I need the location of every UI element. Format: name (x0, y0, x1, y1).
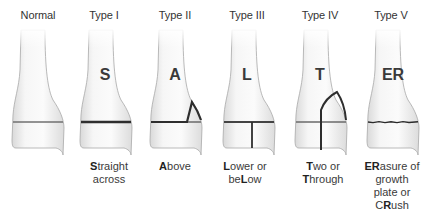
caption-line: beLow (205, 173, 285, 186)
caption-text: traight (97, 160, 128, 172)
letter-type-2: A (150, 66, 200, 84)
bone-type-3 (223, 28, 277, 155)
caption-text: be (228, 173, 240, 185)
label-type-1: Type I (69, 9, 139, 21)
label-type-5: Type V (356, 9, 426, 21)
mnemonic-letter: T (306, 160, 313, 172)
mnemonic-letter: A (159, 160, 167, 172)
caption-line: ERasure of (352, 160, 432, 173)
bone-type-5 (367, 28, 421, 155)
mnemonic-letter: L (223, 160, 230, 172)
letter-type-4: T (295, 66, 345, 84)
caption-type-3: Lower orbeLow (205, 160, 285, 186)
caption-text: ow (247, 173, 261, 185)
caption-line: Above (135, 160, 215, 173)
letter-type-3: L (222, 66, 272, 84)
fracture-line (368, 122, 418, 123)
caption-type-2: Above (135, 160, 215, 173)
label-type-4: Type IV (285, 9, 355, 21)
caption-type-4: Two orThrough (283, 160, 363, 186)
bone-type-4 (295, 28, 349, 155)
caption-text: growth (375, 173, 408, 185)
mnemonic-letter: R (383, 199, 391, 211)
caption-text: C (375, 199, 383, 211)
caption-line: CRush (352, 199, 432, 212)
caption-text: wo or (313, 160, 340, 172)
caption-text: ower or (230, 160, 267, 172)
letter-type-1: S (80, 66, 130, 84)
caption-type-5: ERasure ofgrowthplate orCRush (352, 160, 432, 212)
caption-text: asure of (380, 160, 420, 172)
letter-type-5: ER (368, 66, 418, 84)
caption-text: plate or (374, 186, 411, 198)
salter-harris-diagram: Normal Type I Type II Type III Type IV T… (0, 0, 435, 218)
label-normal: Normal (3, 9, 73, 21)
caption-line: Lower or (205, 160, 285, 173)
caption-text: hrough (309, 173, 343, 185)
caption-line: across (69, 173, 149, 186)
bone-type-1 (80, 28, 134, 155)
caption-line: Two or (283, 160, 363, 173)
label-type-3: Type III (212, 9, 282, 21)
bone-normal (12, 28, 66, 155)
caption-line: Through (283, 173, 363, 186)
caption-line: growth (352, 173, 432, 186)
caption-text: across (93, 173, 125, 185)
bone-type-2 (150, 28, 204, 155)
label-type-2: Type II (140, 9, 210, 21)
caption-text: ush (391, 199, 409, 211)
mnemonic-letter: ER (364, 160, 379, 172)
caption-line: plate or (352, 186, 432, 199)
caption-text: bove (167, 160, 191, 172)
